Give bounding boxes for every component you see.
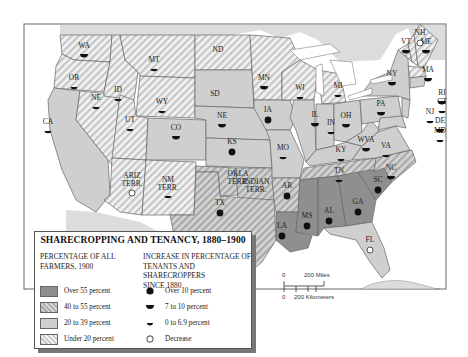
state-in xyxy=(316,104,334,150)
state-label-ks: KS xyxy=(227,137,237,146)
state-label-vt: VT xyxy=(401,37,411,46)
legend-title: SHARECROPPING AND TENANCY, 1880–1900 xyxy=(35,235,251,245)
increase-symbol-fl-decrease xyxy=(367,247,373,253)
legend: SHARECROPPING AND TENANCY, 1880–1900 PER… xyxy=(34,231,252,349)
legend-category-20to39: 20 to 39 percent xyxy=(40,316,111,330)
state-label-fl: FL xyxy=(366,235,375,244)
legend-category-under20: Under 20 percent xyxy=(40,332,114,346)
state-label-sc: SC xyxy=(373,175,382,184)
legend-category-label: 20 to 39 percent xyxy=(64,319,111,327)
state-label-mn: MN xyxy=(258,73,271,82)
legend-right-heading-line-1: INCREASE IN PERCENTAGE OF xyxy=(143,252,251,262)
scale-km-label: 200 Kilometers xyxy=(294,294,334,300)
state-label-ga: GA xyxy=(353,197,364,206)
state-label-ri: RI xyxy=(438,88,446,97)
legend-left-heading-line-2: FARMERS, 1900 xyxy=(40,262,116,272)
state-label-mo: MO xyxy=(277,143,290,152)
legend-symbol-label: Decrease xyxy=(165,335,191,343)
legend-left-heading: PERCENTAGE OF ALL FARMERS, 1900 xyxy=(40,252,116,271)
state-label-ar: AR xyxy=(282,181,292,190)
state-label-or: OR xyxy=(69,73,79,82)
increase-symbol-ia-over10 xyxy=(265,117,272,124)
scale-bar-graphic xyxy=(282,280,342,294)
increase-symbol-ga-over10 xyxy=(355,209,362,216)
legend-symbol-over10: Over 10 percent xyxy=(143,284,211,298)
state-label-nj: NJ xyxy=(426,107,434,116)
state-label-va: VA xyxy=(381,141,391,150)
state-label-al: AL xyxy=(324,206,334,215)
legend-symbol-label: Over 10 percent xyxy=(165,287,211,295)
state-label-wva: WVA xyxy=(358,135,376,144)
legend-symbol-7to10: 7 to 10 percent xyxy=(143,300,208,314)
increase-symbol-tx-over10 xyxy=(217,210,224,217)
state-nd xyxy=(195,35,252,70)
swatch-40to55 xyxy=(40,302,58,313)
state-label-pa: PA xyxy=(377,99,386,108)
state-label-co: CO xyxy=(171,123,182,132)
state-label-wy: WY xyxy=(156,97,169,106)
large-half-circle-icon xyxy=(143,302,157,312)
legend-symbol-label: 0 to 6.9 percent xyxy=(165,319,210,327)
swatch-over55 xyxy=(40,286,58,297)
swatch-20to39 xyxy=(40,318,58,329)
scale-km-zero: 0 xyxy=(282,294,285,300)
state-label-ma: MA xyxy=(422,65,435,74)
increase-symbol-al-over10 xyxy=(326,218,333,225)
scale-bar: 0 200 Miles 0 200 Kilometers xyxy=(282,272,372,312)
scale-miles-label: 200 Miles xyxy=(304,272,330,278)
full-circle-icon xyxy=(143,286,157,296)
state-label-ms: MS xyxy=(302,211,313,220)
state-label-indian-terr: INDIANTERR. xyxy=(243,177,270,194)
state-label-nd: ND xyxy=(213,45,224,54)
state-label-ia: IA xyxy=(264,105,272,114)
increase-symbol-nh-decrease xyxy=(417,40,423,46)
legend-category-40to55: 40 to 55 percent xyxy=(40,300,111,314)
legend-left-heading-line-1: PERCENTAGE OF ALL xyxy=(40,252,116,262)
state-label-oh: OH xyxy=(341,111,352,120)
scale-miles-zero: 0 xyxy=(282,272,285,278)
state-label-wi: WI xyxy=(295,83,305,92)
increase-symbol-ms-over10 xyxy=(304,223,311,230)
state-label-wa: WA xyxy=(78,41,90,50)
state-label-in: IN xyxy=(327,118,335,127)
legend-symbol-label: 7 to 10 percent xyxy=(165,303,208,311)
state-label-ut: UT xyxy=(125,115,135,124)
state-label-il: IL xyxy=(311,110,318,119)
legend-right-heading-line-2: TENANTS AND SHARECROPPERS xyxy=(143,262,251,281)
state-label-ny: NY xyxy=(387,69,398,78)
state-label-id: ID xyxy=(114,85,122,94)
state-label-ca: CA xyxy=(43,117,54,126)
state-label-nh: NH xyxy=(415,28,426,37)
legend-symbol-decrease: Decrease xyxy=(143,332,191,346)
state-ct-ri xyxy=(410,76,426,88)
state-label-nc: NC xyxy=(386,163,396,172)
legend-symbol-0to6.9: 0 to 6.9 percent xyxy=(143,316,210,330)
state-label-sd: SD xyxy=(210,89,220,98)
increase-symbol-ks-over10 xyxy=(229,149,236,156)
legend-category-over55: Over 55 percent xyxy=(40,284,110,298)
state-label-de: DE xyxy=(435,116,445,125)
swatch-under20 xyxy=(40,334,58,345)
state-ks xyxy=(206,138,272,168)
legend-category-label: Under 20 percent xyxy=(64,335,114,343)
small-half-circle-icon xyxy=(143,318,157,328)
increase-symbol-ariz-terr-decrease xyxy=(129,190,135,196)
state-label-mt: MT xyxy=(148,55,160,64)
state-label-ne: NE xyxy=(91,93,101,102)
open-circle-icon xyxy=(143,334,157,344)
state-label-ky: KY xyxy=(336,145,347,154)
increase-symbol-la-over10 xyxy=(279,233,286,240)
legend-category-label: 40 to 55 percent xyxy=(64,303,111,311)
state-label-tn: TN xyxy=(334,166,345,175)
legend-category-label: Over 55 percent xyxy=(64,287,110,295)
increase-symbol-ar-over10 xyxy=(284,193,291,200)
state-label-tx: TX xyxy=(215,198,226,207)
state-label-la: LA xyxy=(277,221,288,230)
increase-symbol-sc-over10 xyxy=(375,187,382,194)
state-label-ariz-terr: ARIZTERR. xyxy=(121,171,142,188)
state-label-ne: NE xyxy=(217,111,227,120)
state-sd xyxy=(195,70,254,108)
state-label-mi: MI xyxy=(333,81,343,90)
